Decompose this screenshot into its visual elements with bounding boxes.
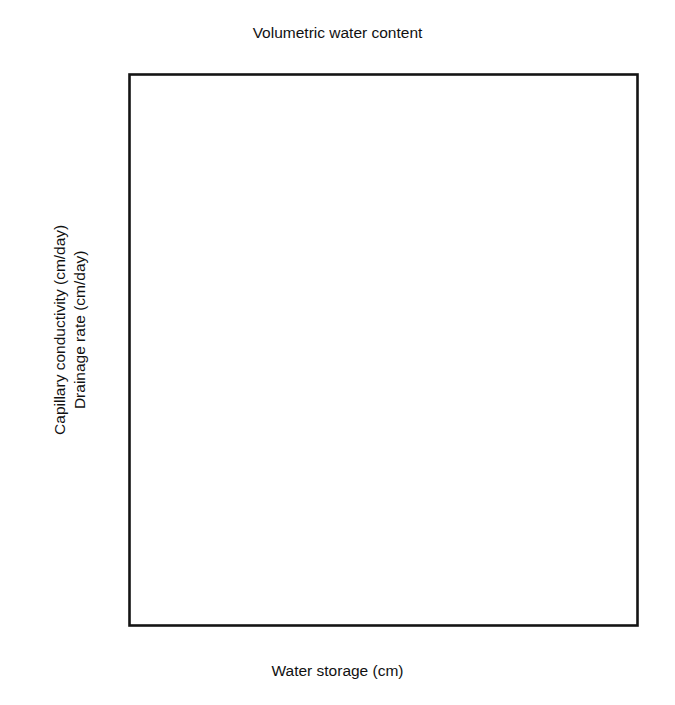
plot-frame-rect [130, 75, 638, 626]
y-axis-title: Capillary conductivity (cm/day) Drainage… [50, 50, 90, 610]
plot-canvas [0, 0, 675, 705]
top-axis-title: Volumetric water content [0, 24, 675, 42]
figure-scatter-plot: Volumetric water content Water storage (… [0, 0, 675, 705]
plot-frame [130, 75, 638, 626]
y-axis-title-line-1: Capillary conductivity (cm/day) [50, 50, 70, 610]
bottom-axis-title: Water storage (cm) [0, 662, 675, 680]
y-axis-title-line-2: Drainage rate (cm/day) [70, 50, 90, 610]
